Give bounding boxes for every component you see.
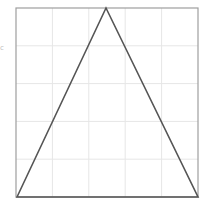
triangle-shape [17,8,198,197]
grid-lines [16,8,198,197]
triangle-diagram [0,0,207,210]
frame-border [16,8,198,197]
